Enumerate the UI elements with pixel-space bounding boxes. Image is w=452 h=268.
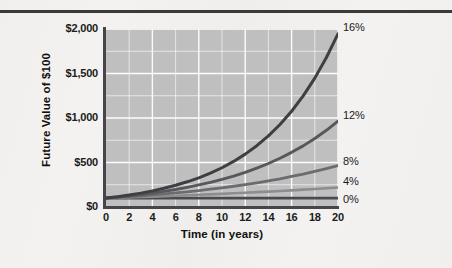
y-tick-label: $2,000: [28, 22, 98, 34]
y-tick-label: $500: [28, 156, 98, 168]
y-axis-title: Future Value of $100: [40, 20, 52, 200]
top-divider-rule: [0, 10, 452, 13]
series-label-8pct: 8%: [343, 155, 359, 167]
x-axis-title: Time (in years): [106, 228, 338, 240]
x-tick-label: 12: [234, 211, 256, 223]
series-label-12pct: 12%: [343, 109, 365, 121]
series-label-0pct: 0%: [343, 193, 359, 205]
y-tick-label: $1,000: [28, 111, 98, 123]
plot-canvas: [106, 29, 338, 207]
plot-area: [106, 29, 338, 207]
page-background: $0$500$1,000$1,500$2,000 024681012141618…: [0, 0, 452, 268]
x-tick-label: 20: [327, 211, 349, 223]
x-tick-label: 18: [304, 211, 326, 223]
x-tick-label: 10: [211, 211, 233, 223]
y-axis-line: [103, 27, 106, 209]
x-tick-label: 6: [165, 211, 187, 223]
y-tick-label: $1,500: [28, 67, 98, 79]
x-axis-line: [103, 206, 339, 209]
x-tick-label: 8: [188, 211, 210, 223]
y-tick-label: $0: [28, 200, 98, 212]
x-tick-label: 0: [95, 211, 117, 223]
series-label-16pct: 16%: [343, 21, 365, 33]
series-label-4pct: 4%: [343, 175, 359, 187]
x-tick-label: 14: [257, 211, 279, 223]
x-tick-label: 2: [118, 211, 140, 223]
x-tick-label: 4: [141, 211, 163, 223]
future-value-line-chart: $0$500$1,000$1,500$2,000 024681012141618…: [0, 14, 452, 268]
x-tick-label: 16: [281, 211, 303, 223]
